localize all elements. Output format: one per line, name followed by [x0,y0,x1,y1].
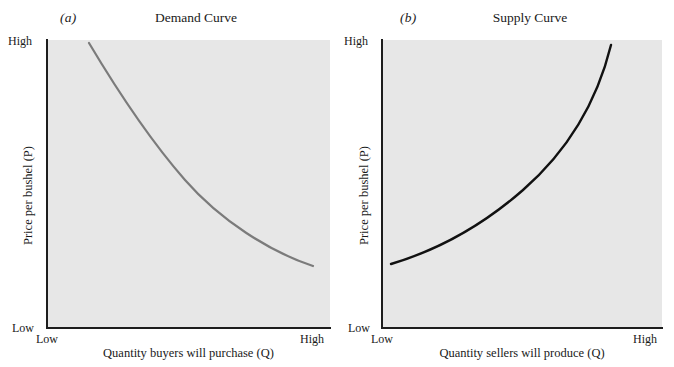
y-axis-title-demand: Price per bushel (P) [22,146,35,245]
x-axis-line-demand [46,327,331,329]
x-axis-title-supply: Quantity sellers will produce (Q) [382,347,662,360]
demand-supply-figure: (a) Demand Curve High Low Low High Price… [0,0,674,367]
plot-area-supply [382,40,662,327]
panel-letter-a: (a) [60,11,76,25]
x-tick-high-supply: High [633,333,657,345]
y-axis-title-supply: Price per bushel (P) [358,146,371,245]
panel-title-demand: Demand Curve [106,11,286,25]
panel-demand-curve: (a) Demand Curve High Low Low High Price… [0,0,340,367]
y-tick-high-demand: High [8,35,32,47]
panel-letter-b: (b) [400,11,416,25]
plot-area-demand [47,40,330,327]
x-tick-low-demand: Low [36,333,58,345]
y-axis-line-demand [46,39,48,329]
y-tick-high-supply: High [344,35,368,47]
y-axis-line-supply [381,39,383,329]
y-tick-low-supply: Low [348,322,370,334]
y-tick-low-demand: Low [12,322,34,334]
panel-supply-curve: (b) Supply Curve High Low Low High Price… [340,0,674,367]
x-axis-line-supply [381,327,663,329]
x-axis-title-demand: Quantity buyers will purchase (Q) [47,347,330,360]
x-tick-low-supply: Low [371,333,393,345]
x-tick-high-demand: High [300,333,324,345]
panel-title-supply: Supply Curve [440,11,620,25]
